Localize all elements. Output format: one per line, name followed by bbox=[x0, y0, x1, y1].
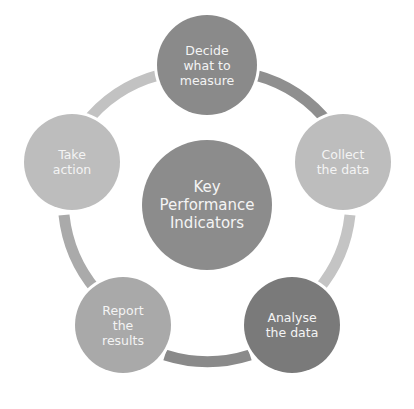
step-decide-what-to-measure: Decide what to measure bbox=[157, 15, 257, 115]
step-label: Take action bbox=[53, 147, 91, 177]
step-collect-the-data: Collect the data bbox=[295, 114, 391, 210]
step-report-the-results: Report the results bbox=[75, 277, 171, 373]
step-take-action: Take action bbox=[24, 114, 120, 210]
step-label: Decide what to measure bbox=[180, 43, 235, 88]
arc-collect-to-analyse bbox=[318, 215, 350, 290]
step-label: Analyse the data bbox=[266, 310, 319, 340]
step-analyse-the-data: Analyse the data bbox=[244, 277, 340, 373]
center-key-performance-indicators: Key Performance Indicators bbox=[142, 140, 272, 270]
arc-report-to-take bbox=[64, 215, 96, 290]
step-label: Collect the data bbox=[317, 147, 370, 177]
center-label: Key Performance Indicators bbox=[159, 178, 254, 232]
arc-analyse-to-report bbox=[165, 355, 250, 362]
arc-decide-to-collect bbox=[255, 75, 330, 125]
step-label: Report the results bbox=[102, 303, 144, 348]
arc-take-to-decide bbox=[84, 75, 159, 125]
